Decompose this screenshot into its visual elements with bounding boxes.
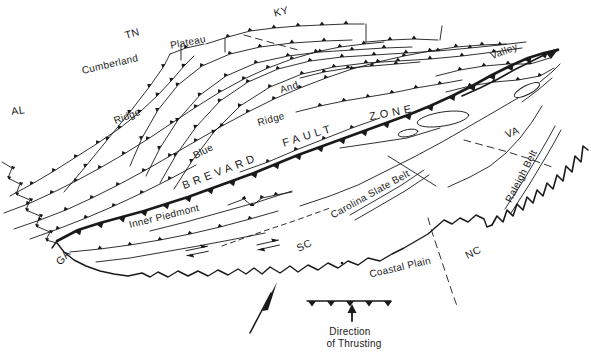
ne-lens bbox=[512, 80, 541, 101]
geologic-sketch-map: AL TN KY GA SC NC VA Cumberland Plateau … bbox=[0, 0, 591, 354]
tn-ky-border bbox=[244, 35, 298, 50]
thrust-fault-lines bbox=[2, 24, 554, 252]
sc-nc-border bbox=[428, 218, 457, 306]
fault-tip-barb bbox=[545, 48, 559, 59]
atlantic-piedmont-jagged-line bbox=[492, 146, 588, 225]
legend-caption-line2: of Thrusting bbox=[326, 338, 381, 349]
legend-caption-line1: Direction bbox=[329, 326, 370, 337]
coastal-plain-boundary-line bbox=[57, 146, 588, 277]
va-nc-border bbox=[464, 140, 552, 167]
label-state-al: AL bbox=[10, 103, 25, 117]
geologic-belt-outlines bbox=[96, 64, 561, 262]
strike-slip-arrows bbox=[185, 237, 280, 258]
north-arrow-icon bbox=[250, 282, 277, 333]
legend-thrust-symbol bbox=[307, 301, 391, 321]
raleigh-belt-west-line bbox=[448, 106, 542, 187]
up-arrow-icon bbox=[348, 304, 357, 321]
